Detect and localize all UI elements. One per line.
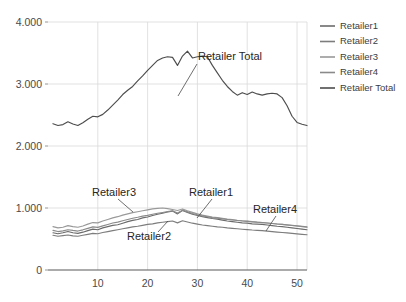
annotation-label: Retailer Total (198, 50, 262, 62)
y-tick-label: 0 (36, 264, 42, 276)
y-tick-label: 3.000 (16, 78, 42, 90)
x-axis-tick-labels: 1020304050 (92, 277, 303, 289)
x-tick-label: 50 (291, 277, 303, 289)
annotation-label: Retailer2 (127, 230, 171, 242)
line-chart: 01.0002.0003.0004.000 1020304050 Retaile… (0, 0, 406, 302)
legend-label-retailer4[interactable]: Retailer4 (340, 66, 378, 77)
x-tick-label: 20 (142, 277, 154, 289)
y-tick-label: 2.000 (16, 140, 42, 152)
annotation-label: Retailer1 (189, 186, 233, 198)
annotation-label: Retailer4 (253, 203, 297, 215)
x-tick-label: 30 (192, 277, 204, 289)
y-axis-tick-labels: 01.0002.0003.0004.000 (16, 16, 48, 276)
x-tick-label: 40 (241, 277, 253, 289)
legend-label-retailer1[interactable]: Retailer1 (340, 20, 378, 31)
legend-label-retailer2[interactable]: Retailer2 (340, 35, 378, 46)
legend[interactable]: Retailer1Retailer2Retailer3Retailer4Reta… (320, 20, 395, 93)
legend-label-retailer3[interactable]: Retailer3 (340, 51, 378, 62)
annotation-label: Retailer3 (92, 186, 136, 198)
y-tick-label: 4.000 (16, 16, 42, 28)
chart-canvas: 01.0002.0003.0004.000 1020304050 Retaile… (0, 0, 406, 302)
y-tick-label: 1.000 (16, 202, 42, 214)
legend-label-retailer-total[interactable]: Retailer Total (340, 82, 395, 93)
x-tick-label: 10 (92, 277, 104, 289)
